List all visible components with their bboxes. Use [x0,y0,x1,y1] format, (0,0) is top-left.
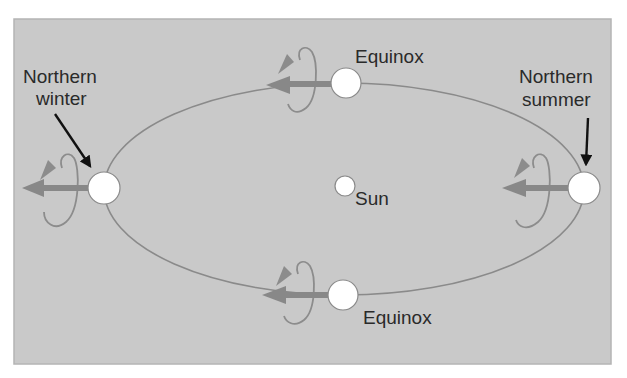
sun [335,176,355,196]
label-sun: Sun [355,188,389,209]
earth-northern-winter [88,172,120,204]
label-northern-summer-line1: Northern [519,66,593,87]
earth-equinox-bottom [328,280,358,310]
earth-northern-summer [568,172,600,204]
label-northern-winter-line2: winter [35,88,87,109]
label-northern-winter-line1: Northern [23,66,97,87]
orbit-diagram: Northern winter Northern summer Equinox … [0,0,627,378]
earth-equinox-top [331,68,361,98]
label-equinox-top: Equinox [355,46,424,67]
label-northern-summer-line2: summer [522,89,591,110]
label-equinox-bottom: Equinox [363,307,432,328]
